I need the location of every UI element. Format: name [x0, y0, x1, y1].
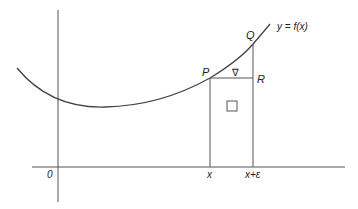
point-q-label: Q: [246, 29, 255, 41]
diagram-canvas: y = f(x) Q P R ∇ 0 x x+ε: [0, 0, 358, 209]
function-label: y = f(x): [276, 21, 308, 32]
x-tick-label: x: [206, 169, 213, 180]
function-curve: [17, 24, 270, 107]
x-eps-tick-label: x+ε: [244, 169, 261, 180]
point-r-label: R: [257, 73, 265, 85]
triangle-symbol: ∇: [231, 67, 239, 78]
point-p-label: P: [202, 66, 210, 78]
rect-symbol-icon: [227, 101, 237, 111]
origin-label: 0: [47, 169, 53, 180]
